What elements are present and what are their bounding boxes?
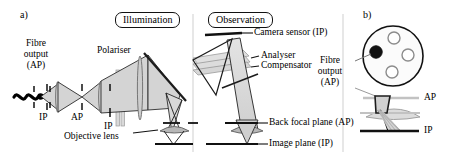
lens-3 <box>137 56 142 120</box>
objective-lens-label: Objective lens <box>64 131 119 142</box>
fibre-output-label-b-line3: (AP) <box>306 77 354 88</box>
beam-cone-2 <box>58 82 82 112</box>
fibre-squiggle <box>14 95 38 99</box>
analyser-label: Analyser <box>261 50 295 61</box>
plane-marker-ip-1: IP <box>39 112 47 123</box>
fibre-output-label-a-line3: (AP) <box>10 60 62 71</box>
polariser-label: Polariser <box>97 45 131 56</box>
observation-title: Observation <box>208 12 273 28</box>
ip-label-b: IP <box>424 125 432 136</box>
observation-beam-slab <box>227 38 258 133</box>
sample-lens-b <box>366 109 420 120</box>
fibre-output-label-a-line2: output <box>10 49 62 60</box>
panel-tag-a: a) <box>20 10 28 21</box>
compensator-label: Compensator <box>261 60 312 71</box>
image-plane-label: Image plane (IP) <box>269 138 333 149</box>
figure-root: a) b) Illumination Observation Fibre out… <box>0 0 453 159</box>
ap-label-b: AP <box>424 92 436 103</box>
fibre-emitter-box-b <box>375 96 390 113</box>
panel-tag-b: b) <box>363 10 371 21</box>
plane-marker-ap-1: AP <box>71 112 83 123</box>
plane-marker-ip-2: IP <box>104 121 112 132</box>
fibre-output-label-b-line2: output <box>306 66 354 77</box>
fibre-output-label-a-line1: Fibre <box>10 38 62 49</box>
camera-sensor-bar <box>205 33 242 35</box>
fibre-core-right <box>402 49 414 61</box>
fibre-output-label-b-line1: Fibre <box>306 55 354 66</box>
back-focal-plane-label: Back focal plane (AP) <box>269 117 354 128</box>
camera-sensor-label: Camera sensor (IP) <box>254 27 327 38</box>
fibre-core-bottom <box>386 66 398 78</box>
objective-lens-leader <box>133 130 158 133</box>
fibre-core-active <box>370 46 382 58</box>
fibre-core-top <box>388 32 400 44</box>
illumination-title: Illumination <box>115 12 180 28</box>
